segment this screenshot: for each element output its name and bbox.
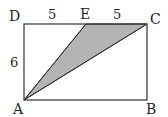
- vertex-label-d: D: [9, 8, 20, 24]
- geometry-diagram: D E C A B 5 5 6: [0, 0, 168, 117]
- length-label-de: 5: [48, 7, 56, 22]
- vertex-label-e: E: [80, 6, 90, 22]
- vertex-label-a: A: [12, 101, 24, 117]
- vertex-label-c: C: [150, 11, 161, 27]
- length-label-ec: 5: [113, 7, 121, 22]
- vertex-label-b: B: [146, 101, 156, 117]
- length-label-ad: 6: [10, 55, 18, 70]
